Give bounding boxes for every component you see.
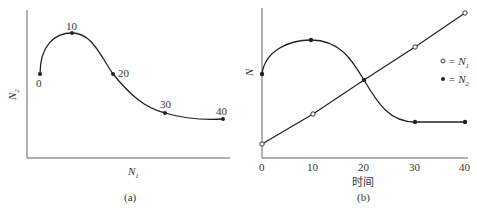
panel-a-label-30: 30	[160, 98, 172, 110]
n2-point-10	[309, 38, 313, 42]
n2-point-0	[260, 72, 264, 76]
legend-open-circle-icon	[441, 59, 445, 63]
panel-b-xtick-0: 0	[259, 161, 265, 173]
panel-a-label-0: 0	[36, 77, 42, 89]
panel-a-point-40	[221, 117, 225, 121]
n2-point-40	[463, 120, 467, 124]
panel-b: 0 10 20 30 40 时间 N = N1 = N2 (b)	[243, 8, 471, 204]
panel-b-y-label: N	[243, 68, 255, 77]
legend-n1: = N1	[448, 55, 469, 70]
panel-b-xtick-10: 10	[307, 161, 319, 173]
panel-a-y-label: N2	[6, 89, 21, 101]
panel-a-x-label: N1	[127, 165, 139, 180]
panel-b-xtick-40: 40	[459, 161, 471, 173]
n1-point-0	[260, 142, 264, 146]
figure: 0 10 20 30 40 N1 N2 (a) 0 10 20 30 40 时间…	[0, 0, 477, 209]
panel-a-point-20	[111, 72, 115, 76]
panel-a-label-10: 10	[66, 20, 78, 32]
n1-point-10	[311, 112, 315, 116]
n2-point-20	[362, 78, 366, 82]
panel-b-x-label: 时间	[352, 176, 374, 188]
panel-a-caption: (a)	[124, 191, 137, 204]
panel-b-xtick-30: 30	[409, 161, 421, 173]
legend: = N1 = N2	[441, 55, 470, 88]
panel-b-caption: (b)	[357, 191, 370, 204]
panel-b-xtick-20: 20	[358, 161, 370, 173]
panel-a-label-20: 20	[118, 67, 130, 79]
n1-point-30	[413, 45, 417, 49]
panel-a-label-40: 40	[216, 105, 228, 117]
panel-a-point-0	[38, 72, 42, 76]
legend-filled-circle-icon	[441, 77, 445, 81]
panel-a-point-30	[163, 111, 167, 115]
n1-point-40	[463, 11, 467, 15]
panel-a: 0 10 20 30 40 N1 N2 (a)	[6, 10, 230, 204]
panel-a-trajectory	[40, 33, 223, 119]
n2-point-30	[413, 120, 417, 124]
legend-n2: = N2	[448, 73, 470, 88]
